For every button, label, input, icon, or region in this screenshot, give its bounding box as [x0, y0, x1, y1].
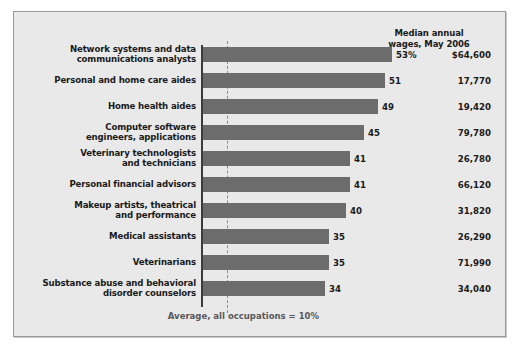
- occupation-label: Veterinary technologistsand technicians: [24, 149, 196, 168]
- bar: [203, 255, 329, 270]
- table-row: Veterinarians3571,990: [14, 255, 507, 270]
- median-wage-value: 34,040: [371, 284, 491, 294]
- bar: [203, 229, 329, 244]
- chart-figure: Median annual wages, May 2006 Network sy…: [0, 0, 524, 354]
- table-row: Substance abuse and behavioraldisorder c…: [14, 281, 507, 296]
- occupation-label: Home health aides: [24, 102, 196, 112]
- occupation-label-line2: and performance: [24, 211, 196, 221]
- table-row: Personal financial advisors4166,120: [14, 177, 507, 192]
- occupation-label-line2: engineers, applications: [24, 133, 196, 143]
- occupation-label-line2: disorder counselors: [24, 289, 196, 299]
- occupation-label: Substance abuse and behavioraldisorder c…: [24, 279, 196, 298]
- table-row: Veterinary technologistsand technicians4…: [14, 151, 507, 166]
- bar: [203, 203, 346, 218]
- median-wage-value: $64,600: [371, 50, 491, 60]
- median-wage-value: 31,820: [371, 206, 491, 216]
- occupation-label: Medical assistants: [24, 232, 196, 242]
- bar: [203, 73, 385, 88]
- bar-value-label: 41: [354, 154, 366, 164]
- bar: [203, 177, 350, 192]
- occupation-label: Veterinarians: [24, 258, 196, 268]
- table-row: Home health aides4919,420: [14, 99, 507, 114]
- table-row: Personal and home care aides5117,770: [14, 73, 507, 88]
- bar-value-label: 34: [329, 284, 341, 294]
- occupation-label-line1: Medical assistants: [24, 232, 196, 242]
- median-wage-value: 19,420: [371, 102, 491, 112]
- median-wage-value: 17,770: [371, 76, 491, 86]
- bar: [203, 125, 364, 140]
- median-wage-value: 26,290: [371, 232, 491, 242]
- occupation-label: Makeup artists, theatricaland performanc…: [24, 201, 196, 220]
- bar-value-label: 40: [350, 206, 362, 216]
- occupation-label-line2: and technicians: [24, 159, 196, 169]
- median-wage-value: 26,780: [371, 154, 491, 164]
- occupation-label-line2: communications analysts: [24, 55, 196, 65]
- occupation-label-line1: Personal and home care aides: [24, 76, 196, 86]
- bar-value-label: 35: [333, 232, 345, 242]
- median-wage-value: 79,780: [371, 128, 491, 138]
- table-row: Computer softwareengineers, applications…: [14, 125, 507, 140]
- bar: [203, 281, 325, 296]
- bar: [203, 47, 392, 62]
- plot-area: Network systems and datacommunications a…: [14, 12, 507, 338]
- occupation-label: Computer softwareengineers, applications: [24, 123, 196, 142]
- occupation-label-line1: Personal financial advisors: [24, 180, 196, 190]
- occupation-label: Personal financial advisors: [24, 180, 196, 190]
- average-reference-label: Average, all occupations = 10%: [49, 311, 319, 321]
- bar-value-label: 41: [354, 180, 366, 190]
- occupation-label: Network systems and datacommunications a…: [24, 45, 196, 64]
- chart-panel: Median annual wages, May 2006 Network sy…: [13, 11, 506, 337]
- occupation-label-line1: Veterinarians: [24, 258, 196, 268]
- table-row: Medical assistants3526,290: [14, 229, 507, 244]
- bar: [203, 99, 378, 114]
- occupation-label-line1: Home health aides: [24, 102, 196, 112]
- bar-value-label: 35: [333, 258, 345, 268]
- median-wage-value: 66,120: [371, 180, 491, 190]
- table-row: Makeup artists, theatricaland performanc…: [14, 203, 507, 218]
- occupation-label: Personal and home care aides: [24, 76, 196, 86]
- table-row: Network systems and datacommunications a…: [14, 47, 507, 62]
- median-wage-value: 71,990: [371, 258, 491, 268]
- bar: [203, 151, 350, 166]
